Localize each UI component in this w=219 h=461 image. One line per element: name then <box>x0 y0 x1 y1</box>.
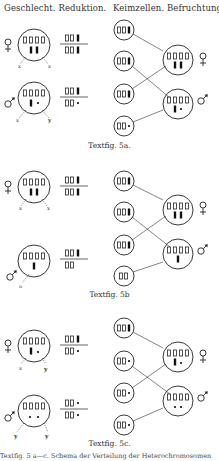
svg-text:y: y <box>43 365 48 373</box>
svg-text:o: o <box>19 283 22 289</box>
caption-5a: Textfig. 5a. <box>0 141 219 150</box>
figure-legend: Textfig. 5 a—c. Schema der Verteilung de… <box>0 452 211 460</box>
svg-text:x: x <box>18 63 21 69</box>
svg-text:x: x <box>48 63 51 69</box>
caption-5b: Textfig. 5b <box>0 290 219 299</box>
svg-text:x: x <box>47 205 50 211</box>
svg-text:x: x <box>19 205 22 211</box>
panel-5a: x x x y <box>5 20 208 136</box>
panel-5b: x x o <box>5 171 208 289</box>
svg-text:y: y <box>47 117 52 124</box>
male-symbol-icon <box>5 97 15 107</box>
svg-text:x: x <box>19 365 22 371</box>
svg-text:x: x <box>16 117 19 123</box>
caption-5c: Textfig. 5c. <box>0 439 219 448</box>
panel-5c: x y y y <box>5 318 208 440</box>
diagram: x x x y <box>0 0 219 461</box>
female-symbol-icon <box>5 39 11 52</box>
